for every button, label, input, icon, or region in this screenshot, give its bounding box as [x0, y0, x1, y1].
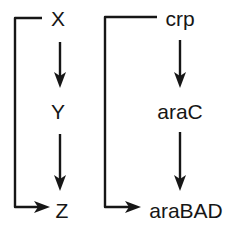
edge-crp-to-arabad-bracket [105, 17, 157, 207]
edge-x-to-z-bracket [15, 18, 42, 207]
panel-abstract-ffl: X Y Z [15, 7, 69, 222]
panel-arabinose-ffl: crp araC araBAD [105, 7, 223, 222]
node-label-crp: crp [165, 7, 194, 30]
node-label-arac: araC [157, 100, 203, 123]
diagram-canvas: X Y Z crp araC araBAD [0, 0, 232, 237]
node-label-z: Z [56, 199, 69, 222]
node-label-x: X [51, 7, 65, 30]
node-label-arabad: araBAD [149, 199, 223, 222]
ffl-diagram-figure: X Y Z crp araC araBAD [0, 0, 232, 237]
node-label-y: Y [51, 100, 65, 123]
